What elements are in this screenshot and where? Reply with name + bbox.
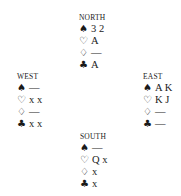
south-hearts-row: ♡Q x [80,154,107,166]
west-hearts-row: ♡x x [17,94,42,106]
south-spades-row: ♠— [80,142,107,154]
north-clubs-row: ♣A [79,59,105,71]
heart-icon: ♡ [143,94,155,106]
club-icon: ♣ [17,118,29,130]
east-spades: A K [155,82,172,94]
heart-icon: ♡ [17,94,29,106]
west-diamonds: — [29,106,40,118]
south-spades: — [92,142,103,154]
club-icon: ♣ [143,118,155,130]
diamond-icon: ♢ [79,47,91,59]
south-clubs-row: ♣x [80,178,107,190]
west-label: WEST [17,72,42,82]
west-diamonds-row: ♢— [17,106,42,118]
east-diamonds-row: ♢— [143,106,172,118]
east-spades-row: ♠A K [143,82,172,94]
east-diamonds: — [155,106,166,118]
south-hearts: Q x [92,154,107,166]
west-hand: WEST ♠— ♡x x ♢— ♣x x [17,72,42,130]
east-clubs-row: ♣— [143,118,172,130]
heart-icon: ♡ [79,35,91,47]
spade-icon: ♠ [79,23,91,35]
north-hearts: A [91,35,99,47]
east-label: EAST [143,72,172,82]
west-clubs-row: ♣x x [17,118,42,130]
north-diamonds: — [91,47,102,59]
south-diamonds-row: ♢x [80,166,107,178]
north-diamonds-row: ♢— [79,47,105,59]
spade-icon: ♠ [80,142,92,154]
north-spades: 3 2 [91,23,104,35]
south-label: SOUTH [80,132,107,142]
south-hand: SOUTH ♠— ♡Q x ♢x ♣x [80,132,107,190]
diamond-icon: ♢ [17,106,29,118]
spade-icon: ♠ [143,82,155,94]
west-spades: — [29,82,40,94]
north-spades-row: ♠3 2 [79,23,105,35]
diamond-icon: ♢ [80,166,92,178]
club-icon: ♣ [79,59,91,71]
north-clubs: A [91,59,99,71]
north-hearts-row: ♡A [79,35,105,47]
spade-icon: ♠ [17,82,29,94]
club-icon: ♣ [80,178,92,190]
east-hearts-row: ♡K J [143,94,172,106]
north-label: NORTH [79,13,105,23]
east-hand: EAST ♠A K ♡K J ♢— ♣— [143,72,172,130]
south-diamonds: x [92,166,97,178]
east-clubs: — [155,118,166,130]
east-hearts: K J [155,94,169,106]
west-spades-row: ♠— [17,82,42,94]
heart-icon: ♡ [80,154,92,166]
west-clubs: x x [29,118,42,130]
south-clubs: x [92,178,97,190]
diamond-icon: ♢ [143,106,155,118]
north-hand: NORTH ♠3 2 ♡A ♢— ♣A [79,13,105,71]
west-hearts: x x [29,94,42,106]
